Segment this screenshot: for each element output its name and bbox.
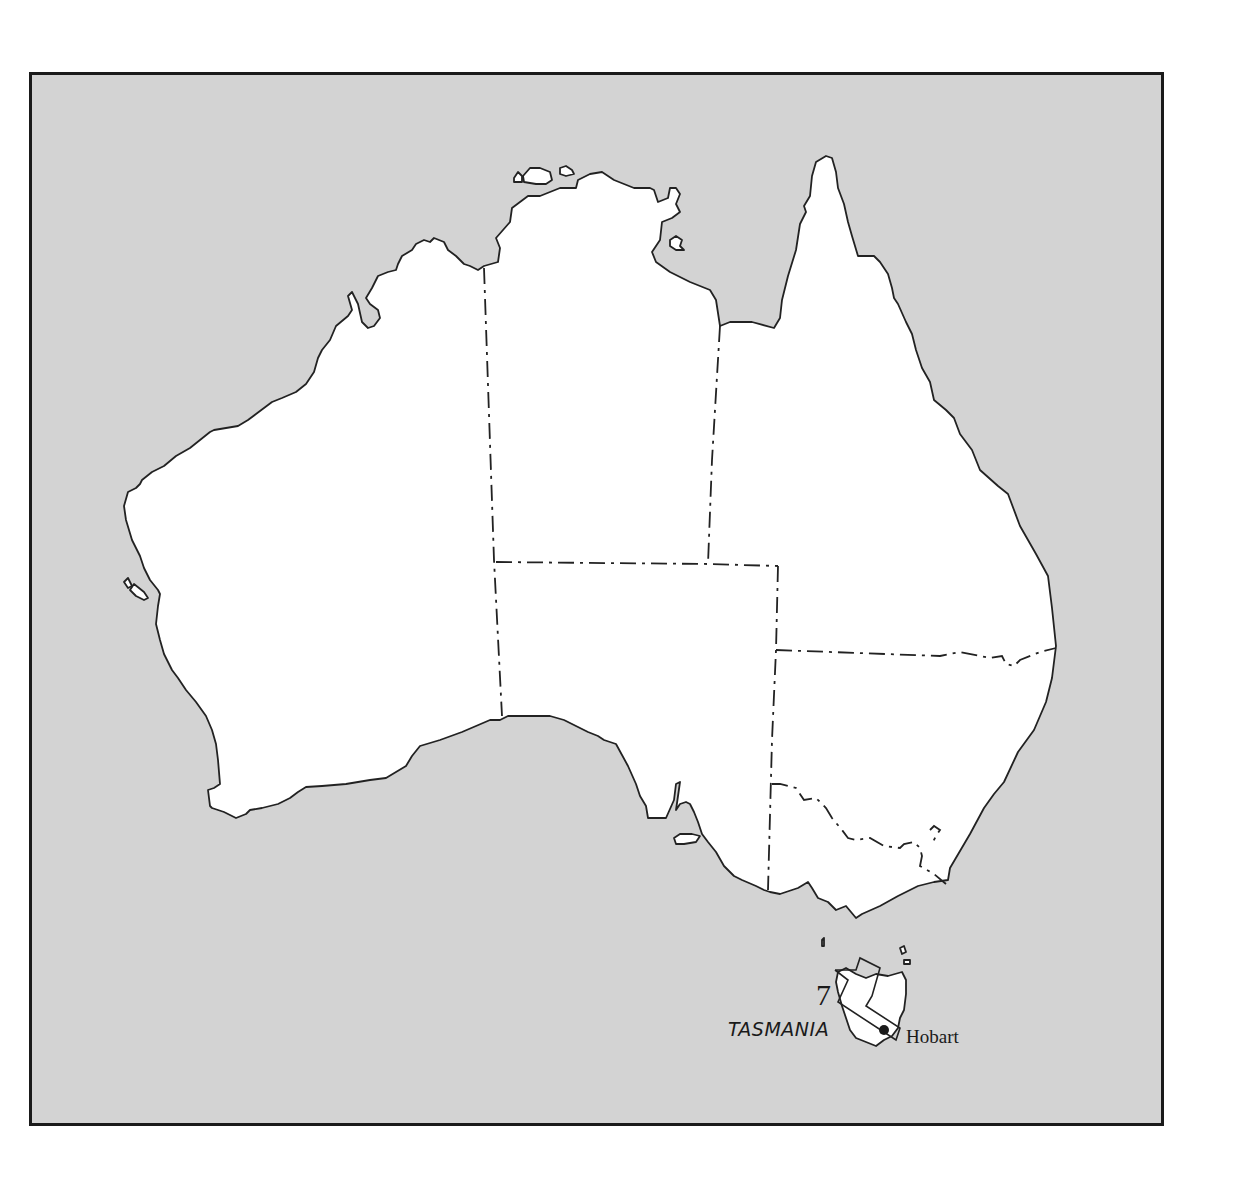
tasmania-label: TASMANIA <box>728 1018 829 1040</box>
hobart-label: Hobart <box>906 1026 959 1048</box>
kangaroo-island <box>674 834 700 844</box>
shark-bay-peninsula <box>130 584 148 600</box>
area-number-label: 7 <box>816 978 831 1012</box>
mainland-australia <box>124 156 1056 918</box>
bathurst-island <box>514 172 522 182</box>
australia-map <box>0 0 1240 1204</box>
flinders-island <box>900 946 906 954</box>
hobart-dot <box>879 1025 889 1035</box>
melville-island <box>523 168 552 184</box>
croker-island <box>560 166 574 176</box>
shark-bay-island <box>124 578 132 588</box>
king-island <box>822 938 824 946</box>
small-island <box>904 960 910 964</box>
groote-eylandt <box>670 236 684 250</box>
